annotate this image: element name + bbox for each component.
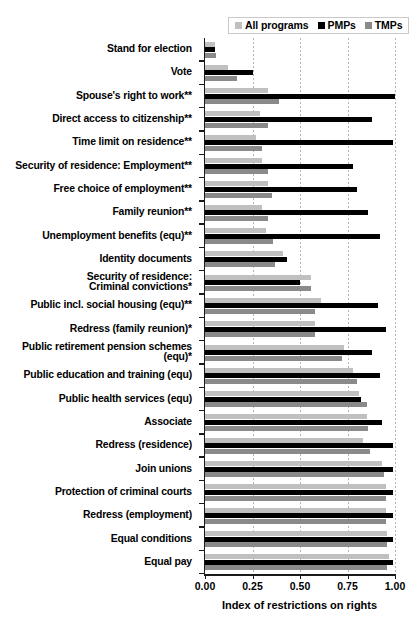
- bar-row: Free choice of employment**: [0, 178, 416, 201]
- bar-row: Public retirement pension schemes (equ)*: [0, 341, 416, 364]
- bar-all-programs: [205, 181, 268, 186]
- bar-all-programs: [205, 438, 363, 443]
- bar-tmps: [205, 53, 216, 58]
- bar-pmps: [205, 210, 368, 215]
- bar-pmps: [205, 537, 393, 542]
- bar-row: Associate: [0, 411, 416, 434]
- bar-group: [205, 251, 287, 267]
- x-tick: [348, 574, 349, 579]
- y-axis-label: Protection of criminal courts: [55, 487, 192, 498]
- bar-tmps: [205, 496, 386, 501]
- bar-pmps: [205, 140, 393, 145]
- bar-all-programs: [205, 414, 367, 419]
- bar-pmps: [205, 513, 393, 518]
- bar-all-programs: [205, 111, 260, 116]
- bar-tmps: [205, 356, 342, 361]
- bar-tmps: [205, 379, 357, 384]
- bar-pmps: [205, 164, 353, 169]
- bar-all-programs: [205, 205, 262, 210]
- legend-item-pmps: PMPs: [318, 20, 356, 31]
- bar-pmps: [205, 257, 287, 262]
- legend-item-tmps: TMPs: [365, 20, 403, 31]
- bar-pmps: [205, 47, 215, 52]
- x-tick: [300, 574, 301, 579]
- bar-group: [205, 531, 393, 547]
- x-tick-label: 0.50: [280, 581, 320, 592]
- bar-tmps: [205, 123, 268, 128]
- bar-tmps: [205, 565, 387, 570]
- bar-row: Public incl. social housing (equ)**: [0, 294, 416, 317]
- bar-group: [205, 368, 380, 384]
- bar-tmps: [205, 262, 275, 267]
- y-axis-label: Security of residence: Criminal convicti…: [87, 272, 192, 293]
- bar-tmps: [205, 402, 367, 407]
- bar-all-programs: [205, 251, 283, 256]
- x-tick-label: 1.00: [375, 581, 415, 592]
- bar-group: [205, 135, 393, 151]
- y-axis-label: Spouse's right to work**: [76, 91, 192, 102]
- y-axis-label: Family reunion**: [112, 207, 192, 218]
- bar-all-programs: [205, 484, 386, 489]
- bar-all-programs: [205, 461, 382, 466]
- bar-group: [205, 391, 367, 407]
- bar-all-programs: [205, 345, 344, 350]
- x-tick: [205, 574, 206, 579]
- bar-tmps: [205, 76, 237, 81]
- bar-group: [205, 111, 372, 127]
- bar-tmps: [205, 542, 387, 547]
- legend-swatch-icon: [318, 22, 325, 29]
- y-axis-label: Vote: [171, 67, 192, 78]
- bar-all-programs: [205, 88, 268, 93]
- y-axis-label: Equal conditions: [111, 534, 192, 545]
- bar-row: Security of residence: Employment**: [0, 155, 416, 178]
- bar-all-programs: [205, 391, 359, 396]
- bar-tmps: [205, 169, 268, 174]
- y-axis-label: Free choice of employment**: [53, 184, 192, 195]
- bar-tmps: [205, 519, 386, 524]
- y-axis-label: Associate: [144, 417, 192, 428]
- bar-pmps: [205, 234, 380, 239]
- bar-all-programs: [205, 228, 266, 233]
- bar-pmps: [205, 443, 393, 448]
- bar-pmps: [205, 117, 372, 122]
- bar-pmps: [205, 467, 393, 472]
- bar-all-programs: [205, 531, 387, 536]
- bar-tmps: [205, 332, 315, 337]
- y-axis-label: Redress (family reunion)*: [70, 324, 192, 335]
- legend-label: TMPs: [375, 20, 403, 31]
- bar-row: Protection of criminal courts: [0, 481, 416, 504]
- bar-group: [205, 42, 216, 58]
- bar-group: [205, 438, 393, 454]
- bar-group: [205, 461, 393, 477]
- x-axis-label: Index of restrictions on rights: [204, 600, 395, 611]
- x-tick-label: 0.75: [328, 581, 368, 592]
- bar-row: Vote: [0, 61, 416, 84]
- bar-tmps: [205, 449, 370, 454]
- bar-all-programs: [205, 135, 256, 140]
- legend-item-all_programs: All programs: [235, 20, 309, 31]
- bar-row: Spouse's right to work**: [0, 85, 416, 108]
- bar-all-programs: [205, 298, 321, 303]
- bar-row: Unemployment benefits (equ)**: [0, 224, 416, 247]
- bar-row: Family reunion**: [0, 201, 416, 224]
- y-axis-label: Security of residence: Employment**: [15, 161, 192, 172]
- y-axis-label: Public health services (equ): [59, 394, 192, 405]
- bar-row: Public health services (equ): [0, 388, 416, 411]
- bar-pmps: [205, 94, 395, 99]
- bar-tmps: [205, 99, 279, 104]
- y-axis-label: Time limit on residence**: [72, 137, 192, 148]
- bar-row: Equal conditions: [0, 527, 416, 550]
- bar-group: [205, 181, 357, 197]
- bar-row: Equal pay: [0, 551, 416, 574]
- bar-tmps: [205, 146, 262, 151]
- legend-label: PMPs: [328, 20, 356, 31]
- x-tick-label: 0.25: [233, 581, 273, 592]
- bar-pmps: [205, 280, 300, 285]
- legend-label: All programs: [245, 20, 309, 31]
- bar-pmps: [205, 327, 386, 332]
- bar-row: Redress (employment): [0, 504, 416, 527]
- bar-row: Identity documents: [0, 248, 416, 271]
- bar-all-programs: [205, 554, 389, 559]
- bar-group: [205, 484, 393, 500]
- y-axis-label: Stand for election: [107, 44, 192, 55]
